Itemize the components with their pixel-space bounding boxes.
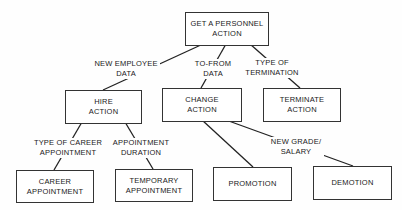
edge-label-new-grade-salary: NEW GRADE/ SALARY xyxy=(268,137,324,157)
edge-label-type-of-career-appointment: TYPE OF CAREER APPOINTMENT xyxy=(32,138,104,158)
edge-label-type-of-termination: TYPE OF TERMINATION xyxy=(242,58,302,78)
edge-label-new-employee-data: NEW EMPLOYEE DATA xyxy=(92,59,160,79)
edge-label-to-from-data: TO-FROM DATA xyxy=(191,59,235,79)
node-hire-action: HIRE ACTION xyxy=(65,90,142,124)
node-change-action: CHANGE ACTION xyxy=(162,88,242,122)
node-promotion: PROMOTION xyxy=(213,167,292,201)
node-career-appointment: CAREER APPOINTMENT xyxy=(16,170,94,203)
edge-label-appointment-duration: APPOINTMENT DURATION xyxy=(111,138,171,158)
node-get-personnel-action: GET A PERSONNEL ACTION xyxy=(185,12,269,46)
node-temporary-appointment: TEMPORARY APPOINTMENT xyxy=(115,169,193,202)
node-demotion: DEMOTION xyxy=(313,166,392,200)
node-terminate-action: TERMINATE ACTION xyxy=(263,88,341,122)
